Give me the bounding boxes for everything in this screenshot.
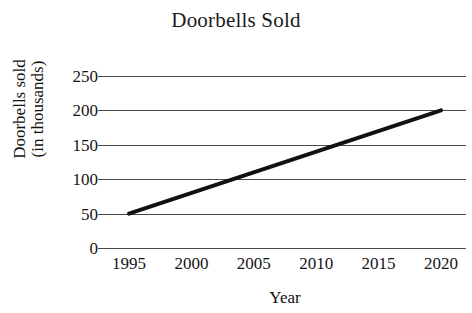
y-tick-label: 250	[54, 68, 98, 85]
y-axis-tick-labels: 250200150100500	[52, 76, 98, 248]
x-tick-label: 2015	[349, 255, 409, 272]
gridline	[104, 248, 466, 249]
chart-title: Doorbells Sold	[0, 8, 472, 33]
x-tick-label: 2000	[161, 255, 221, 272]
x-axis-tick-labels: 199520002005201020152020	[104, 255, 466, 277]
series-line-doorbells-sold	[129, 110, 441, 213]
x-axis-title: Year	[104, 288, 466, 308]
x-tick-label: 2010	[286, 255, 346, 272]
x-tick-label: 2005	[224, 255, 284, 272]
y-tick-label: 200	[54, 102, 98, 119]
y-tick-label: 100	[54, 171, 98, 188]
y-tick-label: 150	[54, 137, 98, 154]
y-axis-title-line-1: Doorbells sold	[11, 59, 29, 159]
data-series-layer	[104, 76, 466, 248]
y-tick-label: 0	[54, 240, 98, 257]
y-axis-title: Doorbells sold (in thousands)	[1, 14, 57, 204]
y-axis-title-line-2: (in thousands)	[29, 61, 47, 158]
x-tick-label: 2020	[411, 255, 471, 272]
y-tick-label: 50	[54, 206, 98, 223]
doorbells-sold-line-chart: Doorbells Sold Doorbells sold (in thousa…	[0, 0, 472, 313]
plot-area	[104, 76, 466, 248]
x-tick-label: 1995	[99, 255, 159, 272]
